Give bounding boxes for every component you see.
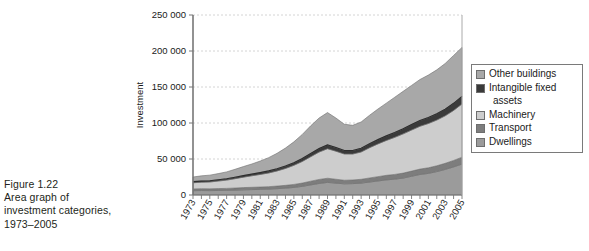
x-tick-label: 1977 [211,198,231,222]
legend-swatch-other-buildings [476,70,485,79]
legend-item-transport[interactable]: Transport [476,122,579,135]
x-tick-label: 1991 [329,198,349,222]
x-axis-ticks [193,195,462,199]
x-tick-label: 1993 [346,198,366,222]
x-tick-label: 1999 [396,198,416,222]
y-tick-label: 100 000 [152,117,186,128]
legend-item-intangible-fixed-assets[interactable]: Intangible fixed [476,82,579,95]
y-tick-label: 0 [181,189,186,200]
x-tick-label: 1983 [262,198,282,222]
x-tick-label: 1981 [245,198,265,222]
x-tick-label: 1997 [379,198,399,222]
x-tick-label: 1995 [363,198,383,222]
legend-swatch-intangible-fixed-assets [476,84,485,93]
legend-swatch-dwellings [476,138,485,147]
legend-label-intangible-fixed-assets: Intangible fixed [489,82,556,95]
legend-label-machinery: Machinery [489,109,535,122]
legend-label-dwellings: Dwellings [489,136,532,149]
legend-swatch-machinery [476,111,485,120]
chart-legend: Other buildings Intangible fixed assets … [471,64,583,153]
legend-label-transport: Transport [489,122,531,135]
legend-label-other-buildings: Other buildings [489,68,556,81]
x-tick-label: 1979 [228,198,248,222]
x-tick-label: 2001 [413,198,433,222]
x-tick-label: 1987 [295,198,315,222]
x-tick-label: 1989 [312,198,332,222]
x-tick-label: 1973 [178,198,198,222]
x-tick-label: 1985 [279,198,299,222]
y-tick-label: 200 000 [152,45,186,56]
figure-root: Figure 1.22 Area graph of investment cat… [0,0,589,251]
y-tick-label: 150 000 [152,81,186,92]
legend-item-dwellings[interactable]: Dwellings [476,136,579,149]
y-axis-ticks: 050 000100 000150 000200 000250 000 [152,9,193,200]
x-tick-label: 2003 [430,198,450,222]
y-tick-label: 50 000 [157,153,186,164]
legend-swatch-transport [476,124,485,133]
y-axis-title: Investment [134,81,145,128]
legend-item-machinery[interactable]: Machinery [476,109,579,122]
x-tick-label: 1975 [194,198,214,222]
legend-item-other-buildings[interactable]: Other buildings [476,68,579,81]
y-tick-label: 250 000 [152,9,186,20]
x-tick-label: 2005 [447,198,467,222]
legend-label-intangible-fixed-assets-line2: assets [493,95,579,108]
x-axis-labels: 1973197519771979198119831985198719891991… [178,198,467,222]
